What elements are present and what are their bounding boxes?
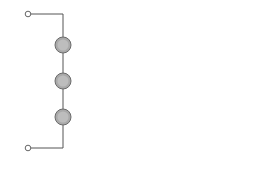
wire-top-a [31,14,63,37]
terminal-b [25,145,31,151]
wire-bottom-a [31,125,63,148]
circuit-diagram [0,0,258,184]
voltage-source-v3 [0,0,71,125]
voltage-source-v1 [0,0,71,53]
terminal-a [25,11,31,17]
circuit-a [0,0,71,151]
